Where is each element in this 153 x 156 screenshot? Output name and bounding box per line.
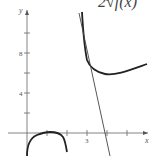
y-tick-label-8: 8 <box>19 50 23 58</box>
tangent-line <box>79 13 110 156</box>
y-axis-label: y <box>18 6 23 15</box>
y-axis <box>25 10 29 156</box>
y-tick-label-4: 4 <box>19 90 23 98</box>
x-tick-label-3: 3 <box>85 137 89 145</box>
function-plot: y x 8 4 3 <box>0 0 153 156</box>
x-axis-label: x <box>144 136 149 145</box>
curve-right <box>82 12 147 74</box>
